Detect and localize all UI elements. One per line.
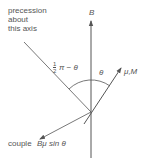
couple-label-prefix: couple xyxy=(8,139,32,148)
field-axis-label: B xyxy=(89,8,94,17)
theta-label: θ xyxy=(99,68,103,77)
precession-label-line2: about xyxy=(8,15,28,24)
angle-arc xyxy=(69,80,110,89)
precession-label-line1: precession xyxy=(8,6,47,15)
moment-vector-label: μ,M xyxy=(124,67,137,76)
fraction-denominator: 2 xyxy=(53,67,56,74)
couple-arrow xyxy=(40,112,91,139)
complement-angle-rest: π − θ xyxy=(59,63,78,72)
precession-axis-line xyxy=(24,42,91,112)
precession-label-line3: this axis xyxy=(8,24,37,33)
couple-label-formula: Bμ sin θ xyxy=(37,139,66,148)
